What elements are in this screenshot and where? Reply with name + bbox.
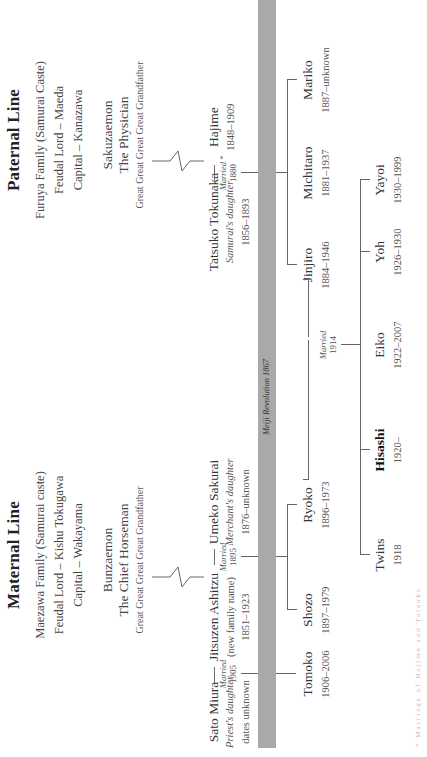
married-year: 1914 xyxy=(328,336,339,354)
sibling-tick xyxy=(360,554,370,555)
person-yayoi: Yayoi xyxy=(372,164,388,196)
descent-line xyxy=(241,673,258,674)
descent-line xyxy=(341,344,360,345)
sibling-bracket xyxy=(287,79,288,265)
lineage-gap-icon xyxy=(148,141,206,181)
married-label: Married * xyxy=(218,156,228,191)
paternal-line-title: Paternal Line xyxy=(4,89,24,191)
married-year: 1895 xyxy=(228,548,239,566)
person-sato-miura: Sato Miura xyxy=(206,682,222,742)
person-eiko: Eiko xyxy=(372,332,388,358)
marriage-line xyxy=(308,340,309,480)
paternal-capital: Capital – Kanazawa xyxy=(70,90,87,191)
paternal-ancestor-role: The Physician xyxy=(116,97,132,174)
person-dates: 1876–unknown xyxy=(238,469,253,534)
marriage-line xyxy=(214,165,215,181)
maternal-line-title: Maternal Line xyxy=(4,501,24,609)
person-dates: 1906–2006 xyxy=(318,650,333,697)
maternal-ancestor-name: Bunzaemon xyxy=(100,528,116,592)
sibling-tick xyxy=(287,79,297,80)
person-dates: 1887–unknown xyxy=(318,47,333,112)
person-dates: 1881–1937 xyxy=(318,149,333,196)
person-jitsuzen-ashitzu: Jitsuzen Ashitzu xyxy=(206,573,222,661)
descent-line xyxy=(276,673,296,674)
person-dates: 1920– xyxy=(390,437,405,463)
descent-line xyxy=(241,172,258,173)
married-label: Married xyxy=(218,660,228,688)
person-umeko-sakurai: Umeko Sakurai xyxy=(206,460,222,544)
sibling-tick xyxy=(360,179,370,180)
person-desc: (new family name) xyxy=(223,577,238,657)
person-dates: 1922–2007 xyxy=(390,321,405,368)
person-dates: 1918 xyxy=(390,545,405,566)
maternal-family: Maezawa Family (Samurai caste) xyxy=(32,471,49,639)
married-year: 1880 xyxy=(228,164,239,182)
person-hajime: Hajime xyxy=(206,107,222,147)
person-jinjiro: Jinjiro xyxy=(300,248,316,283)
maternal-lord: Feudal Lord – Kishu Tokugawa xyxy=(51,476,68,635)
paternal-lord: Feudal Lord – Maeda xyxy=(51,86,68,194)
sibling-bracket xyxy=(360,179,361,555)
person-desc: Merchant's daughter xyxy=(223,458,237,545)
sibling-tick xyxy=(360,251,370,252)
footnote: * Marriage of Hajime and Tatsuko xyxy=(414,587,422,747)
person-shozo: Shozo xyxy=(300,593,316,627)
person-michitaro: Michitaro xyxy=(300,146,316,199)
sibling-tick xyxy=(287,264,297,265)
person-dates: 1848–1909 xyxy=(223,103,238,150)
person-dates: 1856–1893 xyxy=(238,198,253,245)
person-dates: 1884–1946 xyxy=(318,241,333,288)
person-dates: 1897–1979 xyxy=(318,586,333,633)
person-dates: 1930–1999 xyxy=(390,156,405,203)
person-dates: dates unknown xyxy=(238,680,253,743)
marriage-tick xyxy=(303,279,309,280)
marriage-line xyxy=(214,549,215,565)
married-year: 1905 xyxy=(228,665,239,683)
sibling-bracket xyxy=(287,504,288,610)
maternal-ancestor-relation: Great Great Great Great Grandfather xyxy=(133,486,147,633)
maternal-capital: Capital – Wakayama xyxy=(70,503,87,607)
paternal-ancestor-name: Sakuzaemon xyxy=(100,101,116,170)
descent-line xyxy=(241,556,258,557)
person-twins: Twins xyxy=(372,539,388,572)
person-mariko: Mariko xyxy=(300,60,316,100)
meiji-revolution-label: Meiji Revolution 1867 xyxy=(261,359,271,435)
person-dates: 1926–1930 xyxy=(390,228,405,275)
person-dates: 1896–1973 xyxy=(318,481,333,528)
family-tree-page: Maternal Line Maezawa Family (Samurai ca… xyxy=(0,0,427,757)
lineage-gap-icon xyxy=(148,557,206,597)
marriage-tick xyxy=(303,479,309,480)
married-label: Married xyxy=(318,331,328,359)
person-ryoko: Ryoko xyxy=(300,487,316,522)
person-tomoko: Tomoko xyxy=(300,652,316,697)
married-label: Married xyxy=(218,543,228,571)
sibling-tick xyxy=(287,504,297,505)
paternal-ancestor-relation: Great Great Great Great Grandfather xyxy=(133,61,147,208)
person-dates: 1851–1923 xyxy=(238,593,253,640)
sibling-tick xyxy=(287,609,297,610)
person-yoh: Yoh xyxy=(372,241,388,263)
maternal-ancestor-role: The Chief Horseman xyxy=(116,503,132,616)
person-hisashi: Hisashi xyxy=(372,429,388,472)
marriage-line xyxy=(214,667,215,683)
sibling-tick xyxy=(360,449,370,450)
paternal-family: Furuya Family (Samurai Caste) xyxy=(32,61,49,219)
marriage-line xyxy=(308,279,309,337)
person-desc: Samurai's daughter xyxy=(223,181,237,263)
